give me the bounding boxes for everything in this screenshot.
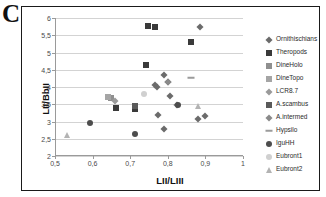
legend-item-hypsilo[interactable]: Hypsilo — [265, 124, 326, 137]
y-tick-mark — [52, 35, 55, 36]
legend-item-lcr8-7[interactable]: LCR8.7 — [265, 85, 326, 98]
data-point[interactable] — [105, 94, 111, 100]
data-point[interactable] — [152, 24, 158, 30]
data-point[interactable] — [160, 72, 167, 79]
data-point[interactable] — [87, 120, 93, 126]
data-point[interactable] — [164, 78, 171, 85]
x-tick-label: 0,5 — [50, 160, 60, 167]
x-tick-mark — [168, 156, 169, 159]
legend-marker-icon — [265, 35, 273, 44]
data-point[interactable] — [132, 131, 138, 137]
legend-label: IguHH — [276, 140, 294, 147]
x-tick-mark — [93, 156, 94, 159]
y-tick-label: 2,5 — [41, 135, 51, 142]
marker-diamond-icon — [265, 36, 272, 43]
data-point[interactable] — [188, 76, 195, 79]
gridline — [55, 18, 243, 19]
data-point[interactable] — [113, 105, 119, 111]
legend-marker-icon — [265, 113, 273, 122]
legend-marker-icon — [265, 152, 273, 161]
marker-diamond-icon — [265, 88, 272, 95]
data-point[interactable] — [196, 23, 203, 30]
data-point[interactable] — [188, 39, 194, 45]
legend-item-iguhh[interactable]: IguHH — [265, 137, 326, 150]
x-tick-label: 0,8 — [163, 160, 173, 167]
legend-item-a-intermed[interactable]: A.intermed — [265, 111, 326, 124]
marker-circle-icon — [266, 141, 272, 147]
legend-item-ornithischians[interactable]: Ornithischians — [265, 33, 326, 46]
x-tick-label: 0,9 — [201, 160, 211, 167]
legend-label: Theropods — [276, 49, 307, 56]
y-tick-label: 5,5 — [41, 32, 51, 39]
data-point[interactable] — [201, 112, 208, 119]
legend-marker-icon — [265, 61, 273, 70]
y-tick-mark — [52, 104, 55, 105]
legend-marker-icon — [265, 126, 273, 135]
x-axis-line — [55, 155, 243, 156]
data-point[interactable] — [132, 103, 138, 109]
legend-label: Hypsilo — [276, 127, 297, 134]
legend-marker-icon — [265, 165, 273, 174]
legend-label: Eubront2 — [276, 166, 302, 173]
marker-square-icon — [266, 76, 272, 82]
data-point[interactable] — [166, 92, 173, 99]
marker-square-icon — [266, 50, 272, 56]
legend-item-eubront2[interactable]: Eubront2 — [265, 163, 326, 176]
data-point[interactable] — [141, 91, 147, 97]
y-tick-mark — [52, 139, 55, 140]
legend-marker-icon — [265, 100, 273, 109]
marker-dash-icon — [266, 129, 273, 132]
chart-panel: C 22,533,544,555,56 0,50,60,70,80,91 LII… — [0, 0, 326, 197]
legend-label: Eubront1 — [276, 153, 302, 160]
gridline — [55, 156, 243, 157]
marker-circle-icon — [266, 154, 272, 160]
y-tick-mark — [52, 87, 55, 88]
y-tick-mark — [52, 122, 55, 123]
marker-diamond-icon — [265, 114, 272, 121]
data-point[interactable] — [64, 132, 70, 138]
chart-frame: 22,533,544,555,56 0,50,60,70,80,91 LII/B… — [21, 6, 320, 191]
x-tick-mark — [55, 156, 56, 159]
marker-square-icon — [266, 63, 272, 69]
data-point[interactable] — [145, 23, 151, 29]
legend-marker-icon — [265, 74, 273, 83]
x-tick-label: 0,6 — [88, 160, 98, 167]
gridline — [55, 35, 243, 36]
gridline — [55, 122, 243, 123]
legend-label: A.intermed — [276, 114, 307, 121]
y-tick-mark — [52, 53, 55, 54]
y-tick-label: 5 — [47, 49, 51, 56]
y-axis-line — [55, 18, 56, 156]
legend-marker-icon — [265, 48, 273, 57]
legend-label: A.scambus — [276, 101, 308, 108]
legend-marker-icon — [265, 139, 273, 148]
gridline — [55, 139, 243, 140]
data-point[interactable] — [154, 83, 161, 90]
marker-square-icon — [266, 102, 272, 108]
legend-item-theropods[interactable]: Theropods — [265, 46, 326, 59]
gridline — [55, 87, 243, 88]
x-tick-mark — [243, 156, 244, 159]
legend-label: DineHolo — [276, 62, 303, 69]
y-tick-label: 4,5 — [41, 66, 51, 73]
data-point[interactable] — [175, 102, 181, 108]
gridline — [55, 53, 243, 54]
chart-legend: OrnithischiansTheropodsDineHoloDineTopoL… — [265, 33, 326, 176]
x-tick-label: 0,7 — [125, 160, 135, 167]
legend-item-a-scambus[interactable]: A.scambus — [265, 98, 326, 111]
legend-item-eubront1[interactable]: Eubront1 — [265, 150, 326, 163]
data-point[interactable] — [143, 62, 149, 68]
y-tick-label: 6 — [47, 15, 51, 22]
y-axis-title: LII/BbII — [40, 83, 51, 115]
y-tick-label: 3 — [47, 118, 51, 125]
legend-item-dineholo[interactable]: DineHolo — [265, 59, 326, 72]
data-point[interactable] — [195, 103, 201, 109]
legend-label: DineTopo — [276, 75, 303, 82]
gridline — [55, 70, 243, 71]
plot-area: 22,533,544,555,56 0,50,60,70,80,91 — [55, 18, 243, 156]
x-tick-mark — [130, 156, 131, 159]
legend-item-dinetopo[interactable]: DineTopo — [265, 72, 326, 85]
data-point[interactable] — [160, 126, 167, 133]
legend-label: LCR8.7 — [276, 88, 298, 95]
data-point[interactable] — [155, 111, 162, 118]
